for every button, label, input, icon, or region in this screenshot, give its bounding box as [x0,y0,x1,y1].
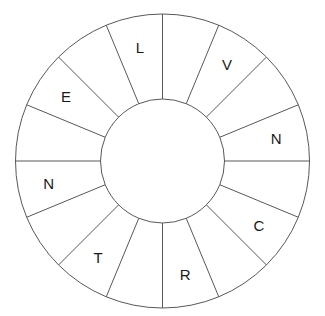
sector-letter-1: V [222,56,232,73]
sector-letter-13: E [61,88,71,105]
sector-letter-9: T [93,249,102,266]
sector-letter-3: N [271,130,282,147]
sector-letter-15: L [136,39,144,56]
sector-letter-11: N [43,175,54,192]
inner-hub-circle [101,99,225,223]
sector-letter-7: R [180,266,191,283]
hub-group [101,99,225,223]
sector-letter-5: C [254,217,265,234]
letter-wheel-svg[interactable]: VNCRTNEL [0,0,325,316]
letter-wheel-figure: VNCRTNEL [0,0,325,316]
